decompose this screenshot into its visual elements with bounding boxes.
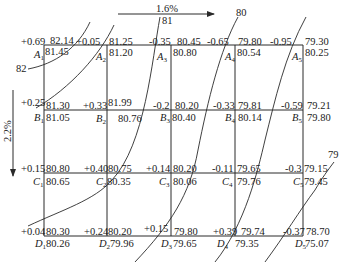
height-change-D2: +0.24 — [84, 226, 108, 237]
contour-label-82: 82 — [16, 63, 27, 74]
height-change-C5: -0.3 — [285, 163, 302, 174]
design-elevation-B2: 81.99 — [108, 97, 132, 108]
natural-elevation-A1: 81.45 — [45, 46, 69, 57]
design-elevation-C1: 80.80 — [46, 163, 70, 174]
design-elevation-A4: 79.80 — [238, 36, 262, 47]
point-A1: A1 — [34, 49, 44, 64]
design-elevation-B4: 79.81 — [238, 100, 262, 111]
design-elevation-C4: 79.65 — [237, 163, 261, 174]
design-elevation-D2: 80.20 — [108, 226, 132, 237]
point-C4: C4 — [222, 176, 233, 191]
point-B4: B4 — [225, 112, 235, 127]
design-elevation-B5: 79.21 — [307, 100, 331, 111]
natural-elevation-D2: 79.96 — [110, 238, 134, 249]
natural-elevation-D5: 75.07 — [305, 238, 329, 249]
natural-elevation-A3: 80.80 — [173, 47, 197, 58]
natural-elevation-C4: 79.76 — [237, 176, 261, 187]
point-C2: C2 — [96, 176, 107, 191]
height-change-A3: -0.35 — [149, 36, 171, 47]
point-B3: B3 — [160, 112, 170, 127]
design-elevation-B1: 81.30 — [46, 100, 70, 111]
height-change-A4: -0.65 — [207, 36, 229, 47]
natural-elevation-B5: 79.80 — [307, 112, 331, 123]
point-A3: A3 — [157, 51, 167, 66]
natural-elevation-B3: 80.40 — [172, 112, 196, 123]
height-change-D4: +0.39 — [213, 226, 237, 237]
point-D1: D1 — [35, 238, 46, 253]
grading-grid-diagram: 1.6% 2.2% 82 81 80 79 +0.69 82.14 A1 81.… — [0, 0, 341, 262]
design-elevation-D1: 80.30 — [46, 226, 70, 237]
height-change-C3: +0.14 — [146, 163, 170, 174]
vertical-slope-label: 2.2% — [2, 120, 13, 142]
height-change-C2: +0.40 — [84, 163, 108, 174]
natural-elevation-D1: 80.26 — [46, 238, 70, 249]
horizontal-slope-label: 1.6% — [156, 3, 178, 14]
point-A4: A4 — [225, 51, 235, 66]
height-change-B3: -0.2 — [153, 100, 170, 111]
design-elevation-A5: 79.30 — [305, 36, 329, 47]
height-change-B5: -0.59 — [281, 100, 303, 111]
height-change-D1: +0.04 — [21, 226, 45, 237]
design-elevation-B3: 80.20 — [175, 100, 199, 111]
point-C1: C1 — [33, 176, 44, 191]
point-B5: B5 — [292, 112, 302, 127]
natural-elevation-D4: 79.35 — [235, 238, 259, 249]
design-elevation-C3: 80.20 — [173, 163, 197, 174]
design-elevation-D5: 78.70 — [306, 226, 330, 237]
height-change-C1: +0.15 — [21, 163, 45, 174]
natural-elevation-C1: 80.65 — [46, 176, 70, 187]
contour-label-81: 81 — [162, 15, 173, 26]
height-change-A2: +0.05 — [76, 36, 100, 47]
natural-elevation-C3: 80.06 — [173, 176, 197, 187]
height-change-A5: -0.95 — [270, 36, 292, 47]
point-D4: D4 — [217, 238, 228, 253]
point-A2: A2 — [96, 51, 106, 66]
point-C5: C5 — [293, 176, 304, 191]
height-change-B4: -0.33 — [213, 100, 235, 111]
natural-elevation-B2: 80.76 — [118, 113, 142, 124]
point-C3: C3 — [159, 176, 170, 191]
contour-82-lower — [36, 25, 114, 108]
design-elevation-D4: 79.74 — [241, 226, 265, 237]
design-elevation-C5: 79.15 — [304, 163, 328, 174]
natural-elevation-A4: 80.54 — [237, 47, 261, 58]
design-elevation-A1: 82.14 — [50, 35, 74, 46]
height-change-D3: +0.15 — [144, 223, 168, 234]
point-B1: B1 — [34, 112, 44, 127]
natural-elevation-C5: 79.45 — [304, 176, 328, 187]
point-D2: D2 — [99, 238, 110, 253]
natural-elevation-A5: 80.25 — [305, 47, 329, 58]
natural-elevation-C2: 80.35 — [107, 176, 131, 187]
design-elevation-D3: 79.80 — [174, 226, 198, 237]
contour-label-80: 80 — [236, 7, 247, 18]
design-elevation-C2: 80.75 — [108, 163, 132, 174]
design-elevation-A2: 81.25 — [109, 36, 133, 47]
natural-elevation-B1: 81.05 — [46, 112, 70, 123]
contour-label-79: 79 — [328, 149, 339, 160]
point-D3: D3 — [161, 238, 172, 253]
height-change-B1: +0.25 — [21, 97, 45, 108]
height-change-C4: -0.11 — [212, 163, 233, 174]
natural-elevation-B4: 80.14 — [238, 112, 262, 123]
point-B2: B2 — [96, 113, 106, 128]
height-change-D5: -0.37 — [283, 226, 305, 237]
natural-elevation-D3: 79.65 — [173, 238, 197, 249]
grid — [44, 45, 303, 236]
point-A5: A5 — [292, 51, 302, 66]
design-elevation-A3: 80.45 — [177, 36, 201, 47]
height-change-A1: +0.69 — [21, 36, 45, 47]
natural-elevation-A2: 81.20 — [109, 47, 133, 58]
height-change-B2: +0.33 — [83, 100, 107, 111]
